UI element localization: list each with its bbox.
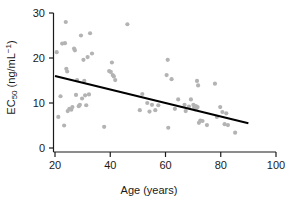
scatter-point <box>150 103 154 107</box>
scatter-point <box>166 126 170 130</box>
scatter-point <box>125 22 129 26</box>
scatter-point <box>153 108 157 112</box>
scatter-point <box>218 105 222 109</box>
scatter-point <box>110 60 114 64</box>
scatter-point <box>195 105 199 109</box>
scatter-point <box>140 92 144 96</box>
scatter-point <box>147 109 151 113</box>
scatter-point <box>79 33 83 37</box>
scatter-point <box>220 110 224 114</box>
scatter-point <box>165 73 169 77</box>
scatter-point <box>226 123 230 127</box>
axis-lines <box>54 13 277 152</box>
scatter-point <box>78 103 82 107</box>
scatter-point <box>80 96 84 100</box>
y-axis-label-text: EC50 (ng/mL−1) <box>6 40 17 114</box>
scatter-point <box>138 108 142 112</box>
scatter-point <box>62 123 66 127</box>
data-points <box>55 20 238 135</box>
scatter-point <box>169 77 173 81</box>
scatter-point <box>58 94 62 98</box>
scatter-point <box>86 55 90 59</box>
y-axis-label: EC50 (ng/mL−1) <box>2 0 20 155</box>
x-tick-label: 60 <box>159 160 171 171</box>
scatter-point <box>55 50 59 54</box>
scatter-point <box>200 119 204 123</box>
scatter-point <box>156 103 160 107</box>
scatter-point <box>73 48 77 52</box>
trendline <box>55 76 248 123</box>
x-tick-label: 80 <box>215 160 227 171</box>
scatter-point <box>112 74 116 78</box>
scatter-point <box>176 97 180 101</box>
scatter-point <box>213 82 217 86</box>
regression-line <box>55 76 248 123</box>
scatter-point <box>65 69 69 73</box>
scatter-point <box>173 107 177 111</box>
scatter-point <box>88 31 92 35</box>
scatter-point <box>205 123 209 127</box>
scatter-point <box>63 41 67 45</box>
scatter-point <box>102 125 106 129</box>
scatter-point <box>195 79 199 83</box>
scatter-point <box>145 101 149 105</box>
x-tick-label: 100 <box>267 160 285 171</box>
scatter-point <box>166 58 170 62</box>
x-tick-label: 20 <box>49 160 61 171</box>
x-tick-label: 40 <box>104 160 116 171</box>
scatter-point <box>113 78 117 82</box>
scatter-point <box>64 20 68 24</box>
scatter-point <box>87 92 91 96</box>
scatter-point <box>224 111 228 115</box>
scatter-point <box>84 103 88 107</box>
scatter-point <box>196 83 200 87</box>
scatter-point <box>184 109 188 113</box>
x-axis-label: Age (years) <box>0 185 298 196</box>
scatter-point <box>56 115 60 119</box>
scatter-point <box>74 93 78 97</box>
scatter-point <box>81 58 85 62</box>
scatter-point <box>233 131 237 135</box>
scatter-point <box>83 93 87 97</box>
scatter-point <box>90 51 94 55</box>
scatter-point <box>70 105 74 109</box>
scatter-plot-figure: 010203020406080100 EC50 (ng/mL−1) Age (y… <box>0 0 298 200</box>
axis-ticks <box>49 13 276 157</box>
scatter-point <box>189 97 193 101</box>
